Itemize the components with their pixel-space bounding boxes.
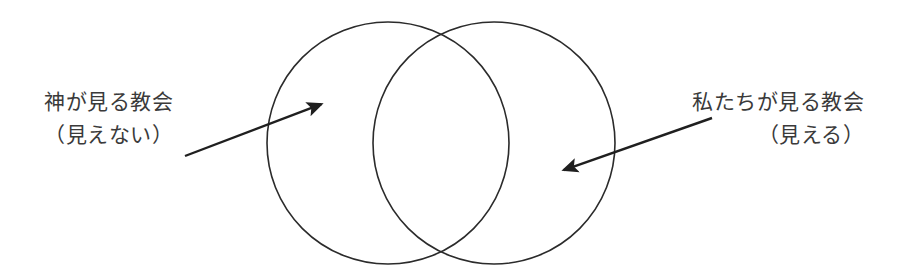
venn-diagram-figure: 神が見る教会 （見えない） 私たちが見る教会 （見える） (0, 0, 908, 278)
left-label: 神が見る教会 （見えない） (44, 86, 173, 152)
left-pointer-arrow (185, 104, 321, 156)
right-label-line-1: 私たちが見る教会 (692, 86, 864, 119)
right-label: 私たちが見る教会 （見える） (692, 86, 864, 152)
right-label-line-2: （見える） (692, 119, 864, 152)
left-label-line-1: 神が見る教会 (44, 86, 173, 119)
right-pointer-arrow (564, 118, 712, 170)
right-circle (373, 22, 615, 264)
left-circle (267, 22, 509, 264)
left-label-line-2: （見えない） (44, 119, 173, 152)
